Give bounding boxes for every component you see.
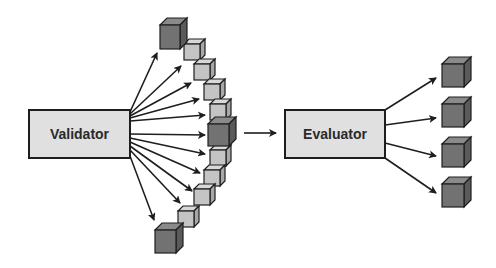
pipeline-diagram: Validator xyxy=(0,0,496,268)
cube-dark-bottom-icon xyxy=(155,223,183,253)
evaluator-label: Evaluator xyxy=(303,126,367,142)
cube-light-icon xyxy=(210,145,231,166)
cube-dark-icon xyxy=(442,97,471,127)
cube-dark-middle-icon xyxy=(208,117,236,146)
cube-light-icon xyxy=(204,165,225,186)
selected-cubes xyxy=(442,57,471,207)
cube-light-icon xyxy=(204,79,225,100)
cube-dark-icon xyxy=(442,177,471,207)
cube-dark-icon xyxy=(442,137,471,167)
cube-light-icon xyxy=(194,184,215,205)
validator-node: Validator xyxy=(29,110,130,158)
cube-dark-icon xyxy=(442,57,471,87)
cube-light-icon xyxy=(194,59,215,80)
validator-label: Validator xyxy=(50,126,110,142)
cube-dark-top-icon xyxy=(160,18,187,49)
evaluator-node: Evaluator xyxy=(285,110,385,158)
evaluator-output-arrows xyxy=(385,78,436,193)
